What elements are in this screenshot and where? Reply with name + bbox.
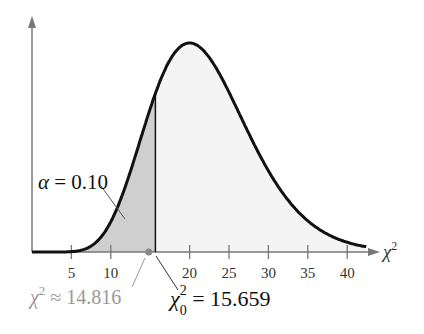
test-leader <box>132 258 145 287</box>
x-tick-label: 40 <box>340 265 355 281</box>
test-statistic-point <box>145 249 152 256</box>
chi-square-chart: 5102025303540 α = 0.10 χ2 χ2 ≈ 14.816 χ2… <box>0 0 424 334</box>
alpha-label: α = 0.10 <box>38 170 108 194</box>
test-statistic-label: χ2 ≈ 14.816 <box>28 283 121 309</box>
axis-label: χ2 <box>381 239 397 262</box>
x-tick-label: 10 <box>103 265 118 281</box>
x-tick-label: 25 <box>222 265 237 281</box>
x-tick-label: 30 <box>261 265 276 281</box>
x-tick-label: 20 <box>182 265 197 281</box>
x-axis-arrow-icon <box>368 248 380 256</box>
curve-area <box>32 43 367 252</box>
x-tick-label: 5 <box>68 265 76 281</box>
y-axis-arrow-icon <box>28 16 36 28</box>
critical-value-label: χ20 = 15.659 <box>168 283 271 318</box>
critical-leader <box>156 256 178 290</box>
x-tick-label: 35 <box>300 265 315 281</box>
